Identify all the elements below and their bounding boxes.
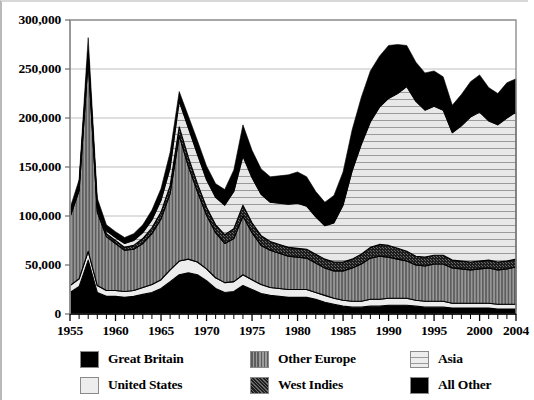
legend-item: United States <box>80 374 182 396</box>
x-axis-tick-label: 1980 <box>272 323 324 339</box>
legend-swatch-icon <box>410 377 429 394</box>
legend-label: United States <box>108 377 182 393</box>
legend-swatch-icon <box>410 351 429 368</box>
legend-label: West Indies <box>278 377 343 393</box>
legend-label: All Other <box>438 377 491 393</box>
legend-swatch-icon <box>250 377 269 394</box>
x-axis-tick-label: 1965 <box>135 323 187 339</box>
legend-item: All Other <box>410 374 491 396</box>
legend-swatch-icon <box>80 351 99 368</box>
y-axis-tick-label: 250,000 <box>2 61 61 77</box>
x-axis-tick-label: 1990 <box>363 323 415 339</box>
x-axis-tick-label: 1995 <box>408 323 460 339</box>
legend-item: Asia <box>410 348 463 370</box>
x-axis-tick-label: 1985 <box>317 323 369 339</box>
stacked-area-chart <box>2 2 530 400</box>
legend-item: Other Europe <box>250 348 356 370</box>
legend-item: West Indies <box>250 374 343 396</box>
x-axis-tick-label: 1955 <box>44 323 96 339</box>
legend-label: Great Britain <box>108 351 184 367</box>
chart-legend: Great BritainOther EuropeAsiaUnited Stat… <box>80 348 524 398</box>
y-axis-tick-label: 50,000 <box>2 257 61 273</box>
legend-swatch-icon <box>80 377 99 394</box>
x-axis-tick-label: 1960 <box>90 323 142 339</box>
y-axis-tick-label: 200,000 <box>2 110 61 126</box>
x-axis-tick-label: 1970 <box>181 323 233 339</box>
legend-label: Other Europe <box>278 351 356 367</box>
x-axis-tick-label: 1975 <box>226 323 278 339</box>
legend-item: Great Britain <box>80 348 184 370</box>
x-axis-tick-label: 2004 <box>490 323 534 339</box>
y-axis-tick-label: 100,000 <box>2 208 61 224</box>
legend-label: Asia <box>438 351 463 367</box>
y-axis-tick-label: 150,000 <box>2 159 61 175</box>
y-axis-tick-label: 0 <box>2 306 61 322</box>
legend-swatch-icon <box>250 351 269 368</box>
y-axis-tick-label: 300,000 <box>2 12 61 28</box>
